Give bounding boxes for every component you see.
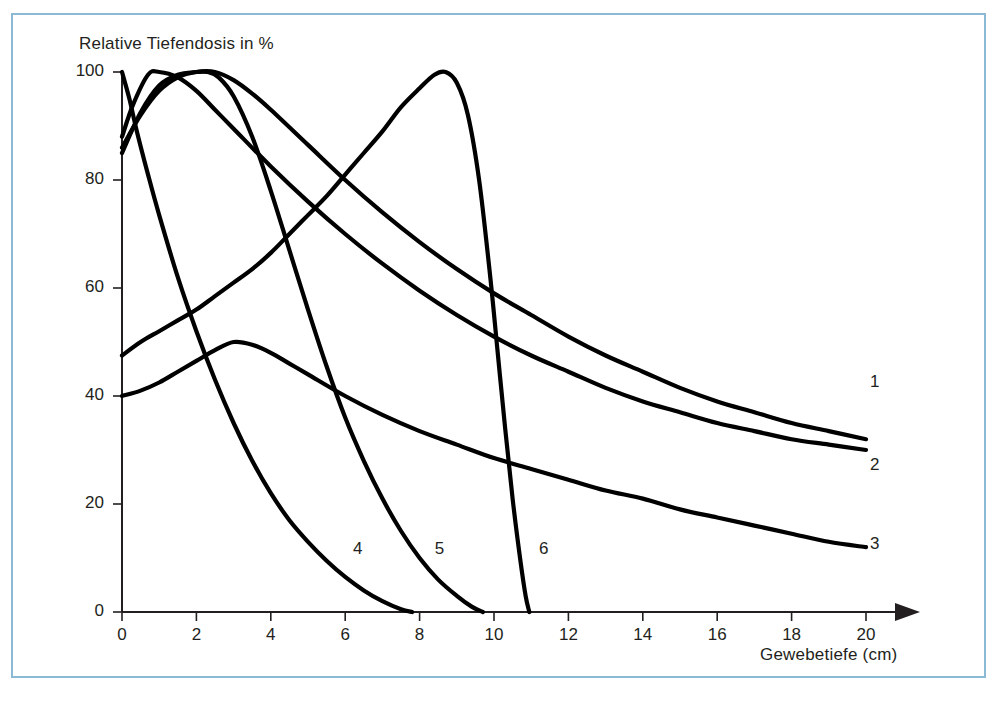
x-tick-label: 20 [849, 625, 883, 645]
axes [122, 70, 920, 621]
dose-curve-2 [122, 71, 866, 450]
x-tick-label: 0 [105, 625, 139, 645]
y-tick-label: 40 [62, 385, 104, 405]
curves [122, 71, 866, 612]
dose-curve-1 [122, 342, 866, 547]
x-tick-label: 14 [626, 625, 660, 645]
dose-curve-4 [122, 72, 412, 612]
y-axis-title: Relative Tiefendosis in % [79, 34, 274, 54]
x-tick-label: 10 [477, 625, 511, 645]
x-tick-label: 12 [551, 625, 585, 645]
curve-label-3: 3 [870, 534, 879, 554]
curve-label-6: 6 [539, 539, 548, 559]
depth-dose-chart [0, 0, 1007, 710]
curve-label-4: 4 [353, 539, 362, 559]
x-tick-label: 8 [403, 625, 437, 645]
x-tick-label: 2 [179, 625, 213, 645]
x-tick-label: 16 [700, 625, 734, 645]
x-axis-arrow-icon [895, 603, 920, 621]
curve-label-5: 5 [435, 539, 444, 559]
y-tick-label: 60 [62, 277, 104, 297]
x-axis-title: Gewebetiefe (cm) [760, 645, 897, 665]
curve-label-1: 1 [870, 372, 879, 392]
x-tick-label: 4 [254, 625, 288, 645]
y-tick-label: 100 [62, 61, 104, 81]
dose-curve-6 [122, 71, 529, 612]
x-tick-label: 6 [328, 625, 362, 645]
dose-curve-5 [122, 71, 483, 612]
y-tick-label: 80 [62, 169, 104, 189]
y-tick-label: 20 [62, 493, 104, 513]
figure-page: Relative Tiefendosis in % Gewebetiefe (c… [0, 0, 1007, 710]
y-tick-label: 0 [62, 601, 104, 621]
curve-label-2: 2 [870, 455, 879, 475]
x-tick-label: 18 [775, 625, 809, 645]
